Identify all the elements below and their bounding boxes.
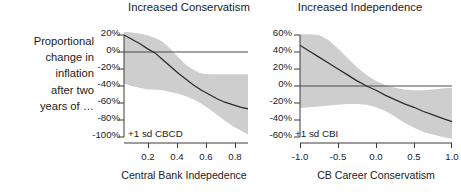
panel-right-plot (248, 0, 461, 192)
panel-left-plot (0, 0, 248, 192)
panel-left-ci-band (124, 32, 248, 135)
panel-increased-independence: Increased Independence 60% 40% 20% 0% -2… (248, 0, 461, 192)
panel-increased-conservatism: Increased Conservatism 20% 0% -20% -40% … (0, 0, 248, 192)
figure-root: Proportional change in inflation after t… (0, 0, 461, 192)
